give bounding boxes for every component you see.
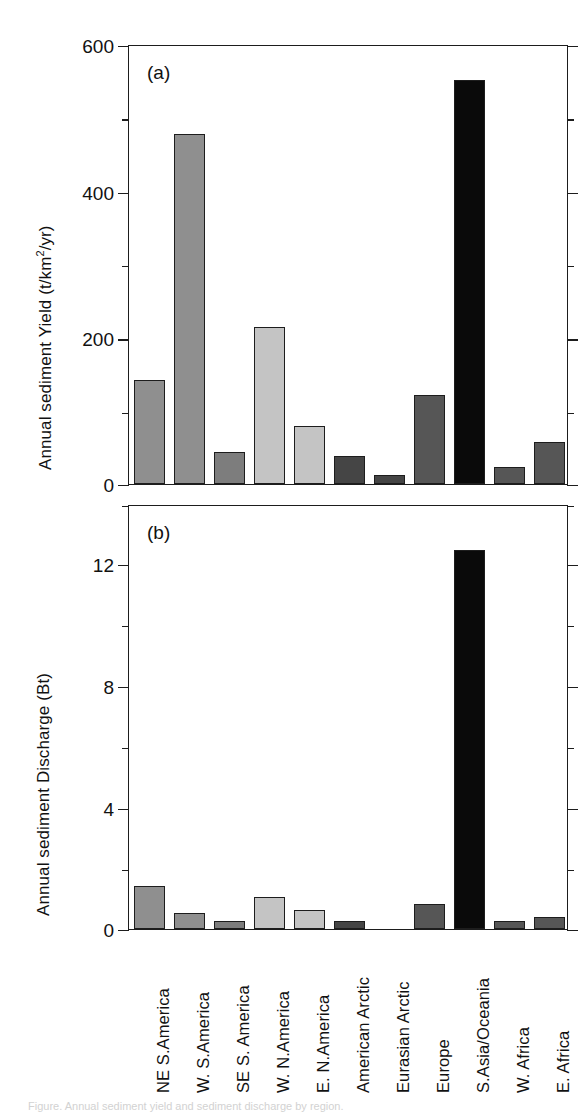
panel-b-tick-8	[118, 687, 129, 688]
panel-b-tick-14-right	[567, 506, 574, 507]
panel-b-tick-12	[118, 565, 129, 566]
bar	[254, 897, 285, 929]
panel-b-bar-group	[129, 506, 567, 929]
bar	[174, 913, 205, 929]
bar	[294, 910, 325, 929]
panel-b-tick-0-right	[567, 930, 578, 931]
figure-caption: Figure. Annual sediment yield and sedime…	[28, 1100, 568, 1114]
x-axis-label: NE S.America	[154, 988, 173, 1093]
x-axis-label: Europe	[434, 1039, 453, 1093]
x-axis-label: S.Asia/Oceania	[474, 978, 493, 1093]
bar	[494, 921, 525, 929]
bar	[134, 886, 165, 929]
x-axis-label: American Arctic	[354, 977, 373, 1093]
panel-b-tick-10-right	[567, 626, 574, 627]
panel-b-tick-2	[122, 870, 129, 871]
panel-b-y-axis-title: Annual sediment Discharge (Bt)	[34, 673, 54, 916]
panel-b-tick-8-right	[567, 687, 578, 688]
x-axis-category-labels: NE S.AmericaW. S.AmericaSE S. AmericaW. …	[0, 0, 588, 170]
x-axis-label: W. Africa	[514, 1027, 533, 1093]
panel-b-tick-12-right	[567, 565, 578, 566]
panel-b-tick-4	[118, 809, 129, 810]
panel-b-tick-6	[122, 748, 129, 749]
panel-b-ticklabel-8: 8	[103, 677, 114, 696]
panel-b-tick-0	[118, 930, 129, 931]
panel-b-plot-area: (b) 12 8 4 0	[128, 505, 568, 930]
panel-b-tick-6-right	[567, 748, 574, 749]
bar	[214, 921, 245, 929]
x-axis-label: W. N.America	[274, 991, 293, 1093]
bar	[534, 917, 565, 929]
panel-b-ticklabel-4: 4	[103, 799, 114, 818]
x-axis-label: W. S.America	[194, 992, 213, 1093]
panel-b-tick-2-right	[567, 870, 574, 871]
x-axis-label: Eurasian Arctic	[394, 981, 413, 1093]
panel-b-tick-14	[122, 506, 129, 507]
panel-b-tick-10	[122, 626, 129, 627]
panel-b-ticklabel-0: 0	[103, 920, 114, 939]
x-axis-label: E. N.America	[314, 995, 333, 1093]
panel-b-tick-4-right	[567, 809, 578, 810]
panel-b-ticklabel-12: 12	[93, 555, 114, 574]
x-axis-label: E. Africa	[554, 1031, 573, 1093]
x-axis-label: SE S. America	[234, 985, 253, 1093]
bar	[414, 904, 445, 929]
figure-root: Annual sediment Yield (t/km2/yr) (a) 600…	[0, 0, 588, 1116]
bar	[454, 550, 485, 929]
bar	[334, 921, 365, 929]
